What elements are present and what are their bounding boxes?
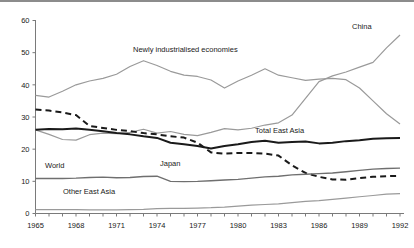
- x-tick-label: 1965: [27, 221, 44, 230]
- y-tick-label: 40: [21, 81, 29, 90]
- y-tick-label: 20: [21, 145, 29, 154]
- series-label-total-east-asia: Total East Asia: [255, 126, 305, 135]
- x-tick-label: 1983: [270, 221, 287, 230]
- series-line-total-east-asia: [36, 129, 401, 149]
- series-label-newly-industrialised-economies: Newly industrialised economies: [133, 45, 238, 54]
- y-tick-label: 0: [25, 209, 29, 218]
- x-tick-label: 1974: [149, 221, 166, 230]
- x-tick-label: 1980: [230, 221, 247, 230]
- y-tick-label: 50: [21, 48, 29, 57]
- chart-container: 0102030405060196519681971197419771980198…: [0, 0, 414, 248]
- x-tick-label: 1968: [68, 221, 85, 230]
- y-tick-label: 10: [21, 177, 29, 186]
- x-tick-label: 1989: [351, 221, 368, 230]
- x-tick-label: 1986: [311, 221, 328, 230]
- y-tick-label: 60: [21, 16, 29, 25]
- y-tick-label: 30: [21, 113, 29, 122]
- x-tick-label: 1992: [392, 221, 409, 230]
- series-label-other-east-asia: Other East Asia: [63, 187, 116, 196]
- series-label-world: World: [45, 161, 64, 170]
- series-line-newly-industrialised-economies: [36, 61, 401, 124]
- series-label-china: China: [352, 22, 372, 31]
- line-chart: 0102030405060196519681971197419771980198…: [0, 0, 414, 248]
- x-tick-label: 1971: [108, 221, 125, 230]
- series-line-other-east-asia: [36, 194, 401, 210]
- series-line-japan: [36, 110, 401, 180]
- x-tick-label: 1977: [189, 221, 206, 230]
- series-label-japan: Japan: [160, 159, 180, 168]
